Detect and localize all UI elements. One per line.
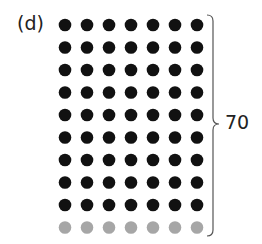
- dark-dot: [191, 19, 204, 32]
- light-dot: [191, 221, 204, 234]
- dark-dot: [81, 176, 94, 189]
- dark-dot: [59, 109, 72, 122]
- dark-dot: [59, 199, 72, 212]
- light-dot: [59, 221, 72, 234]
- dark-dot: [103, 64, 116, 77]
- dark-dot: [59, 131, 72, 144]
- dark-dot: [147, 86, 160, 99]
- light-dot: [169, 221, 182, 234]
- dark-dot: [147, 176, 160, 189]
- dark-dot: [103, 154, 116, 167]
- dark-dot: [191, 109, 204, 122]
- dark-dot: [59, 64, 72, 77]
- dark-dot: [81, 64, 94, 77]
- dark-dot: [125, 19, 138, 32]
- dark-dot: [103, 19, 116, 32]
- dark-dot: [147, 109, 160, 122]
- dark-dot: [191, 41, 204, 54]
- dark-dot: [125, 131, 138, 144]
- dark-dot: [81, 19, 94, 32]
- dark-dot: [169, 131, 182, 144]
- light-dot: [81, 221, 94, 234]
- dark-dot: [169, 19, 182, 32]
- dot-grid: [0, 0, 262, 244]
- dark-dot: [103, 199, 116, 212]
- dark-dot: [147, 154, 160, 167]
- dark-dot: [125, 86, 138, 99]
- dark-dot: [59, 154, 72, 167]
- dark-dot: [125, 154, 138, 167]
- dark-dot: [169, 64, 182, 77]
- dark-dot: [81, 41, 94, 54]
- dark-dot: [103, 41, 116, 54]
- curly-brace: [207, 15, 219, 236]
- dark-dot: [191, 154, 204, 167]
- dark-dot: [59, 41, 72, 54]
- dark-dot: [125, 41, 138, 54]
- total-label: 70: [225, 111, 249, 133]
- dark-dot: [59, 176, 72, 189]
- dark-dot: [147, 199, 160, 212]
- dark-dot: [81, 86, 94, 99]
- dark-dot: [169, 109, 182, 122]
- dark-dot: [147, 41, 160, 54]
- dark-dot: [191, 86, 204, 99]
- dark-dot: [125, 64, 138, 77]
- dark-dot: [169, 199, 182, 212]
- dark-dot: [191, 176, 204, 189]
- dark-dot: [125, 176, 138, 189]
- dark-dot: [59, 86, 72, 99]
- dark-dot: [191, 199, 204, 212]
- light-dot: [125, 221, 138, 234]
- light-dot: [103, 221, 116, 234]
- dark-dot: [169, 86, 182, 99]
- dark-dot: [103, 131, 116, 144]
- dark-dot: [147, 64, 160, 77]
- dark-dot: [169, 41, 182, 54]
- light-dot: [147, 221, 160, 234]
- dark-dot: [191, 131, 204, 144]
- dark-dot: [125, 199, 138, 212]
- dark-dot: [103, 86, 116, 99]
- dark-dot: [103, 176, 116, 189]
- dark-dot: [169, 176, 182, 189]
- dark-dot: [147, 131, 160, 144]
- dark-dot: [103, 109, 116, 122]
- dark-dot: [147, 19, 160, 32]
- dark-dot: [81, 154, 94, 167]
- dark-dot: [191, 64, 204, 77]
- dark-dot: [59, 19, 72, 32]
- dark-dot: [81, 199, 94, 212]
- dark-dot: [81, 109, 94, 122]
- dark-dot: [169, 154, 182, 167]
- dark-dot: [125, 109, 138, 122]
- dark-dot: [81, 131, 94, 144]
